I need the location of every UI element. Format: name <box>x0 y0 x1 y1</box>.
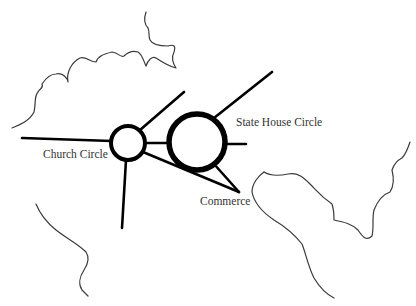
church-circle <box>111 126 145 160</box>
coastline-southeast <box>252 172 334 298</box>
church-circle-label: Church Circle <box>43 149 108 161</box>
coastline-southwest <box>36 204 88 296</box>
road-west <box>22 138 112 141</box>
state-house-circle-label: State House Circle <box>236 117 322 129</box>
commerce-label: Commerce <box>200 196 250 208</box>
state-house-circle <box>169 114 225 170</box>
road-northeast-from-statehouse <box>214 72 272 118</box>
coastline-east-peninsula <box>264 142 410 238</box>
road-south-from-church <box>122 160 126 228</box>
coastline-north <box>12 12 176 128</box>
